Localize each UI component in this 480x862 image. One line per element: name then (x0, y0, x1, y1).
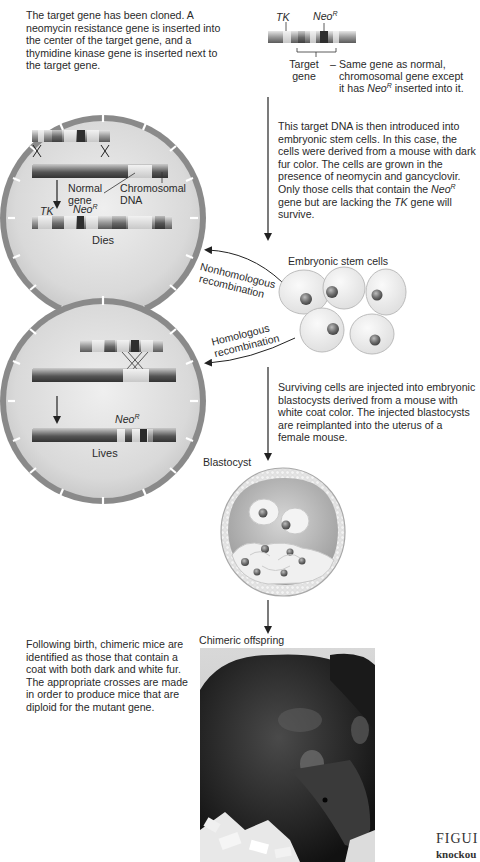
construct-dash: – (330, 58, 336, 70)
lives-outcome-label: Lives (92, 447, 118, 459)
homologous-cell (0, 296, 206, 505)
lives-neo-label: NeoR (115, 413, 140, 425)
target-gene-label: Targetgene (284, 58, 324, 82)
embryonic-stem-cells (279, 267, 406, 354)
construct-tk-label: TK (276, 11, 290, 23)
step4-text: Following birth, chimeric mice are ident… (26, 638, 188, 714)
construct-description: Same gene as normal, chromosomal gene ex… (339, 58, 464, 94)
step3-text: Surviving cells are injected into embryo… (278, 381, 475, 444)
figure-caption-title: FIGUI (436, 831, 478, 847)
step2-text: This target DNA is then introduced into … (278, 120, 478, 221)
blastocyst-label: Blastocyst (203, 456, 251, 468)
construct-neo-label: NeoR (313, 10, 338, 22)
nonhomologous-cell (0, 113, 206, 322)
dies-outcome-label: Dies (92, 234, 114, 246)
chimeric-offspring-label: Chimeric offspring (199, 634, 284, 646)
chromosomal-dna-label: ChromosomalDNA (120, 182, 186, 206)
figure-caption-subtitle: knockou (436, 848, 476, 860)
target-construct-dna (268, 22, 356, 57)
stem-cells-label: Embryonic stem cells (288, 255, 388, 267)
intro-text: The target gene has been cloned. A neomy… (26, 9, 222, 72)
dies-neo-label: NeoR (73, 203, 98, 215)
chimeric-mouse-photo (200, 648, 375, 862)
blastocyst (221, 468, 345, 596)
dies-tk-label: TK (40, 205, 54, 217)
